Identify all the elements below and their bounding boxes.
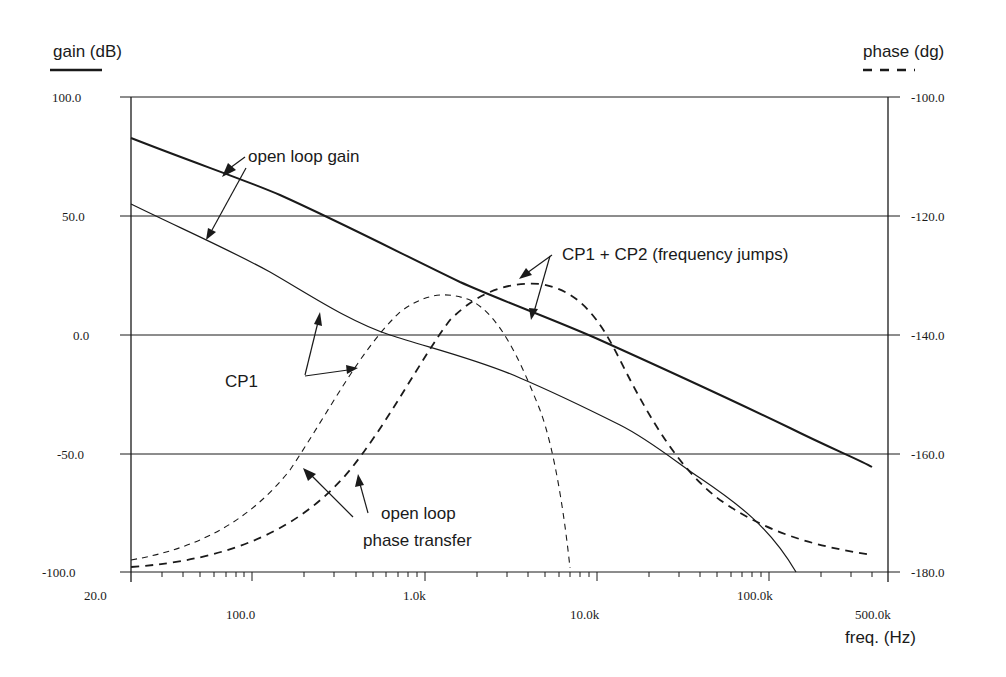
series-open-loop-gain <box>131 138 872 467</box>
bode-plot: gain (dB) phase (dg) <box>0 0 1006 677</box>
svg-text:open loop: open loop <box>381 504 456 523</box>
annotation-open-loop-phase-transfer: open loop phase transfer <box>303 468 472 550</box>
x-tick-labels: 20.0 100.0 1.0k 10.0k 100.0k 500.0k <box>84 588 891 622</box>
series-cp1-cp2-phase <box>131 284 872 567</box>
left-y-tick-labels: 100.0 50.0 0.0 -50.0 -100.0 <box>42 90 89 580</box>
svg-text:-50.0: -50.0 <box>57 447 84 462</box>
right-axis-title: phase (dg) <box>863 42 944 61</box>
svg-text:20.0: 20.0 <box>84 588 107 603</box>
arrowhead-icon <box>206 228 216 240</box>
x-axis-title: freq. (Hz) <box>845 628 916 647</box>
svg-text:-120.0: -120.0 <box>911 209 945 224</box>
svg-text:500.0k: 500.0k <box>855 607 891 622</box>
svg-text:open loop gain: open loop gain <box>248 147 360 166</box>
arrowhead-icon <box>314 312 322 326</box>
gridlines <box>120 97 900 572</box>
svg-text:-100.0: -100.0 <box>911 90 945 105</box>
svg-text:100.0: 100.0 <box>226 607 255 622</box>
arrowhead-icon <box>355 474 364 487</box>
svg-text:100.0k: 100.0k <box>737 588 773 603</box>
series-cp1-phase <box>131 295 570 568</box>
svg-text:1.0k: 1.0k <box>403 588 426 603</box>
svg-text:10.0k: 10.0k <box>570 607 600 622</box>
annotation-open-loop-gain: open loop gain <box>206 147 360 240</box>
arrowhead-icon <box>303 468 316 481</box>
svg-text:0.0: 0.0 <box>73 328 89 343</box>
right-y-tick-labels: -100.0 -120.0 -140.0 -160.0 -180.0 <box>911 90 945 580</box>
svg-text:-140.0: -140.0 <box>911 328 945 343</box>
x-axis-ticks <box>162 572 872 581</box>
arrowhead-icon <box>519 268 532 279</box>
svg-text:-180.0: -180.0 <box>911 565 945 580</box>
annotation-cp1-cp2: CP1 + CP2 (frequency jumps) <box>519 245 788 320</box>
svg-text:-100.0: -100.0 <box>42 565 76 580</box>
svg-text:CP1: CP1 <box>225 372 258 391</box>
svg-text:CP1 + CP2 (frequency jumps): CP1 + CP2 (frequency jumps) <box>562 245 788 264</box>
svg-text:phase transfer: phase transfer <box>363 531 472 550</box>
svg-text:100.0: 100.0 <box>52 90 81 105</box>
svg-text:-160.0: -160.0 <box>911 447 945 462</box>
svg-text:50.0: 50.0 <box>62 209 85 224</box>
left-axis-title: gain (dB) <box>53 42 122 61</box>
annotation-cp1: CP1 <box>225 312 358 391</box>
